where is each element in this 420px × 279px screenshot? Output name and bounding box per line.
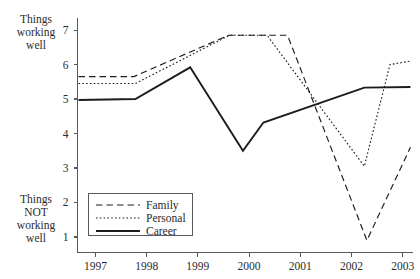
y-tick-label: 5 xyxy=(63,93,69,105)
axis-top-label: Things working well xyxy=(17,13,56,51)
series-line-career xyxy=(79,67,411,150)
x-tick-label: 2000 xyxy=(238,260,261,272)
x-tick-label: 2003 xyxy=(391,260,414,272)
legend-label-personal: Personal xyxy=(146,212,186,224)
x-tick-label: 1998 xyxy=(135,260,158,272)
chart-legend: FamilyPersonalCareer xyxy=(89,194,193,238)
axis-bottom-label-line-4: well xyxy=(26,232,46,244)
axis-bottom-label-line-3: working xyxy=(17,219,56,232)
x-tick-label: 1999 xyxy=(186,260,209,272)
series-line-personal xyxy=(79,35,411,166)
x-tick-label: 2002 xyxy=(340,260,363,272)
y-tick-label: 1 xyxy=(63,231,69,243)
y-tick-label: 3 xyxy=(63,162,69,174)
axis-top-label-line-3: well xyxy=(26,39,46,51)
axis-top-label-line-2: working xyxy=(17,26,56,39)
axis-bottom-label-line-2: NOT xyxy=(24,206,48,218)
legend-label-career: Career xyxy=(146,225,177,237)
x-tick-label: 2001 xyxy=(289,260,312,272)
y-tick-label: 4 xyxy=(63,128,69,140)
x-axis-ticks: 1997199819992000200120022003 xyxy=(84,253,415,272)
x-tick-label: 1997 xyxy=(84,260,107,272)
chart-page: Things working well Things NOT working w… xyxy=(0,0,420,279)
axis-bottom-label: Things NOT working well xyxy=(17,193,56,244)
axis-top-label-line-1: Things xyxy=(20,13,52,26)
y-tick-label: 7 xyxy=(63,24,69,36)
y-axis-ticks: 1234567 xyxy=(63,24,78,243)
line-chart: Things working well Things NOT working w… xyxy=(0,0,420,279)
legend-label-family: Family xyxy=(146,199,179,212)
axis-bottom-label-line-1: Things xyxy=(20,193,52,206)
y-tick-label: 2 xyxy=(63,196,69,208)
y-tick-label: 6 xyxy=(63,59,69,71)
